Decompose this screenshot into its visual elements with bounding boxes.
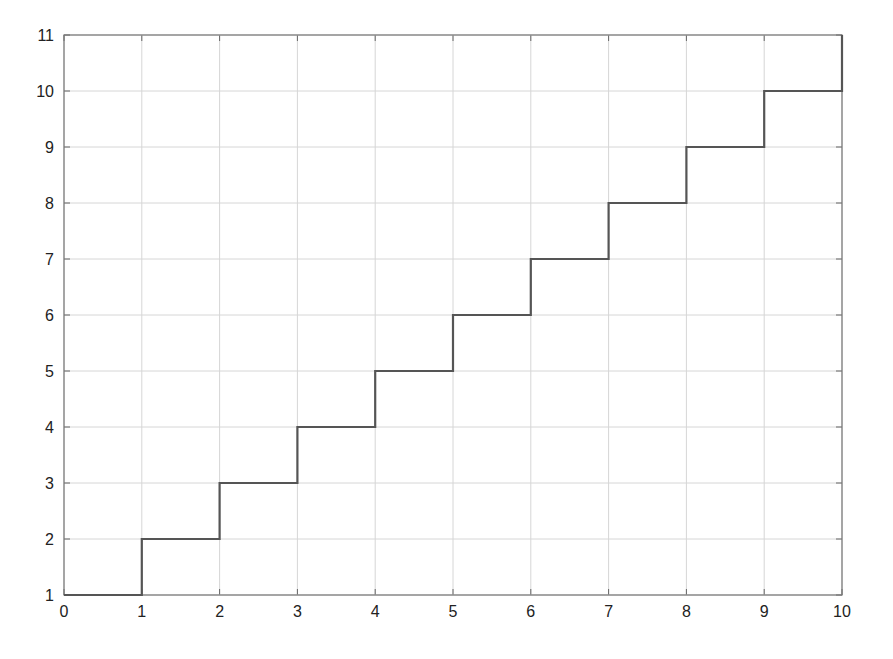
x-tick-label: 3 (293, 603, 302, 620)
y-tick-label: 7 (45, 251, 54, 268)
y-tick-label: 1 (45, 587, 54, 604)
y-tick-label: 4 (45, 419, 54, 436)
y-tick-label: 10 (36, 83, 54, 100)
chart-container: 0123456789101234567891011 (0, 0, 893, 659)
x-tick-label: 5 (449, 603, 458, 620)
x-tick-label: 6 (526, 603, 535, 620)
y-tick-label: 8 (45, 195, 54, 212)
y-tick-label: 6 (45, 307, 54, 324)
y-tick-label: 9 (45, 139, 54, 156)
staircase-chart: 0123456789101234567891011 (0, 0, 893, 659)
x-tick-label: 8 (682, 603, 691, 620)
x-tick-label: 2 (215, 603, 224, 620)
y-tick-label: 3 (45, 475, 54, 492)
x-tick-label: 0 (60, 603, 69, 620)
x-tick-label: 1 (137, 603, 146, 620)
x-tick-label: 9 (760, 603, 769, 620)
x-tick-label: 10 (833, 603, 851, 620)
x-tick-label: 7 (604, 603, 613, 620)
x-tick-label: 4 (371, 603, 380, 620)
y-tick-label: 2 (45, 531, 54, 548)
y-tick-label: 5 (45, 363, 54, 380)
y-tick-label: 11 (37, 27, 54, 44)
